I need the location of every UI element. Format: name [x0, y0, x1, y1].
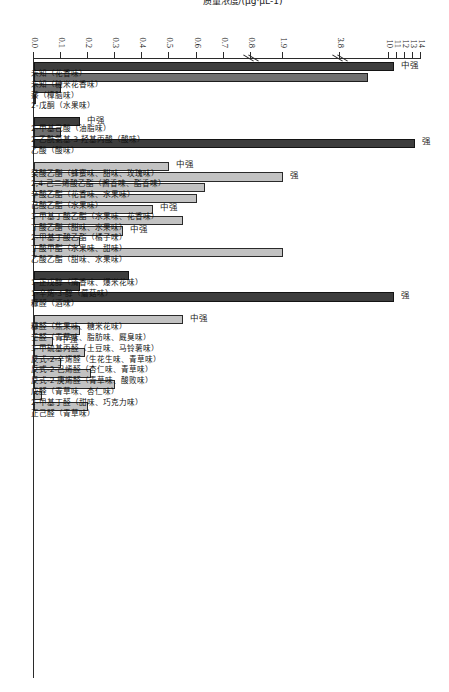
category-label: 2-乙酰氨基-3-羟基丙酸（酸味）	[31, 136, 145, 144]
bar-intensity-note: 强	[290, 168, 299, 180]
axis-tick-label: 0.6	[193, 0, 202, 48]
category-label: 正己醛（青草味）	[31, 410, 95, 418]
axis-tick-label: 0.1	[57, 0, 66, 48]
axis-tick-label: 0.8	[247, 0, 256, 48]
axis-tick-label: 14	[417, 0, 426, 48]
bar-intensity-note: 中强	[401, 58, 419, 70]
category-label: 戊醛（青草味、杏仁味）	[31, 388, 119, 396]
category-label: 乙酸（酸味）	[31, 147, 79, 155]
category-label: 1-辛烯-3-醇（蘑菇味）	[31, 290, 113, 298]
axis-tick-label: 0.5	[165, 0, 174, 48]
category-label: 反式-2-己烯醛（杏仁味、青草味）	[31, 366, 153, 374]
category-label: 糠醛（焦果味、糖米花味）	[31, 323, 127, 331]
axis-title: 质量浓度/(μg·μL-1)	[183, 0, 303, 7]
category-label: 糠醛（酒味）	[31, 300, 79, 308]
category-label: 反式-2-辛烯醛（生花生味、青草味）	[31, 356, 161, 364]
category-label: 丁酸乙酯（甜味、水果味）	[31, 224, 127, 232]
bar-intensity-note: 中强	[87, 113, 105, 125]
axis-tick-label: 3.8	[336, 0, 345, 48]
category-label: 壬醛（青草味、脂肪味、厩臭味）	[31, 334, 151, 342]
category-label: 2-甲基丁醛（甜味、巧克力味）	[31, 399, 143, 407]
axis-tick-label: 0.0	[30, 0, 39, 48]
axis-tick-label: 0.7	[220, 0, 229, 48]
category-label: 3-甲硫基丙醛（土豆味、马铃薯味）	[31, 345, 159, 353]
bar-chart-plot: 0.00.10.20.30.40.50.60.70.81.93.81011121…	[0, 0, 449, 692]
category-label: 乙酸乙酯（甜味、水果味）	[31, 256, 127, 264]
category-label: 3-甲基丁酸乙酯（水果味、花香味）	[31, 213, 159, 221]
category-label: 1-正戊醇（清香味、爆米花味）	[31, 279, 143, 287]
bar-intensity-note: 强	[422, 134, 431, 146]
category-label: 丁酸甲酯（水果味、甜味）	[31, 245, 127, 253]
category-label: 辛酸乙酯（花香味、水果味）	[31, 191, 135, 199]
category-label: 2-戊酮（水果味）	[31, 102, 95, 110]
bar-intensity-note: 中强	[160, 200, 178, 212]
category-label: 2-甲基己酸（油脂味）	[31, 125, 111, 133]
bar	[34, 62, 394, 71]
axis-tick-label: 1.9	[279, 0, 288, 48]
bar-intensity-note: 中强	[130, 222, 148, 234]
category-label: 己酸乙酯（水果味）	[31, 202, 103, 210]
axis-tick-label: 0.4	[138, 0, 147, 48]
category-label: 未知（糖米花香味）	[31, 81, 103, 89]
category-label: 萘（樟脑味）	[31, 92, 79, 100]
axis-tick-label: 0.3	[111, 0, 120, 48]
category-label: 2-甲基丁酸乙酯（橘子味）	[31, 234, 127, 242]
bar-intensity-note: 强	[401, 288, 410, 300]
bar-intensity-note: 中强	[190, 311, 208, 323]
bar-intensity-note: 中强	[176, 157, 194, 169]
axis-tick-label: 0.2	[84, 0, 93, 48]
category-label: 反式-2-庚烯醛（青草味、酸败味）	[31, 377, 153, 385]
category-label: 未知（花香味）	[31, 70, 87, 78]
category-labels-layer: 未知（花香味）未知（糖米花香味）萘（樟脑味）2-戊酮（水果味）2-甲基己酸（油脂…	[1, 58, 31, 678]
figure-stage: 0.00.10.20.30.40.50.60.70.81.93.81011121…	[0, 0, 449, 692]
category-label: 癸酸乙酯（蜂蜜味、甜味、玫瑰味）	[31, 170, 159, 178]
category-label: 2,4-己二烯酸乙酯（酱香味、酯香味）	[31, 180, 166, 188]
